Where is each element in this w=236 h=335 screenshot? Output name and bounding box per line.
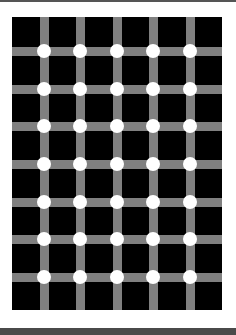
white-dot [37,232,51,246]
white-dot [110,44,124,58]
white-dot [37,44,51,58]
white-dot [110,157,124,171]
white-dot [183,119,197,133]
white-dot [146,119,160,133]
white-dot [146,44,160,58]
white-dot [37,82,51,96]
scintillating-grid [12,17,222,310]
white-dot [73,157,87,171]
white-dot [183,44,197,58]
white-dot [73,270,87,284]
white-dot [183,195,197,209]
white-dot [37,119,51,133]
white-dot [146,270,160,284]
white-dot [73,232,87,246]
white-dot [183,232,197,246]
white-dot [73,44,87,58]
white-dot [183,157,197,171]
white-dot [146,157,160,171]
white-dot [183,270,197,284]
white-dot [183,82,197,96]
white-dot [37,157,51,171]
white-dot [110,119,124,133]
white-dot [37,195,51,209]
white-dot [110,195,124,209]
white-dot [146,195,160,209]
white-dot [73,119,87,133]
white-dot [146,82,160,96]
white-dot [73,195,87,209]
top-frame-bar [0,0,236,2]
white-dot [110,232,124,246]
white-dot [73,82,87,96]
white-dot [110,82,124,96]
white-dot [146,232,160,246]
white-dot [110,270,124,284]
bottom-frame-bar [0,328,236,335]
white-dot [37,270,51,284]
